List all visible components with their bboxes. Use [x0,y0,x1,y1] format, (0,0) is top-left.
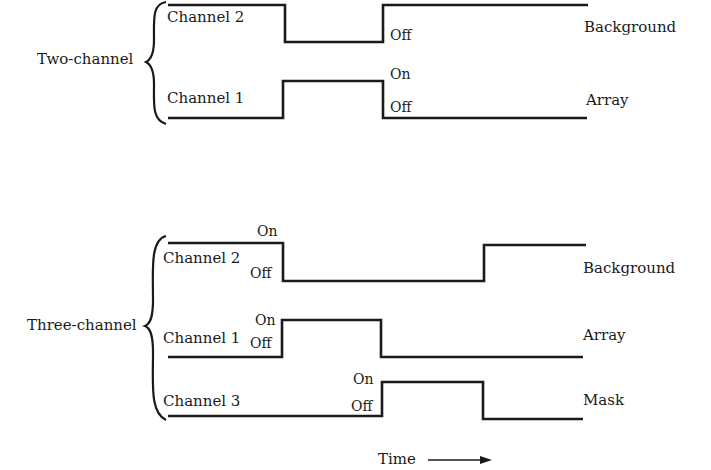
two-ch2-signal-background: Background [584,20,676,35]
three-ch2-signal-background: Background [583,261,675,276]
three-ch3-signal-mask: Mask [583,393,624,408]
three-ch1-on-label: On [255,313,276,327]
time-arrow-head [480,456,492,464]
two-ch1-on-label: On [390,67,411,81]
three-ch1-off-label: Off [250,336,271,350]
three-ch3-off-label: Off [351,399,372,413]
three-ch3-on-label: On [353,372,374,386]
three-channel-group-label: Three-channel [27,318,137,333]
two-ch1-off-label: Off [390,100,411,114]
two-ch2-label: Channel 2 [167,10,244,25]
three-ch2-on-label: On [257,224,278,238]
two-channel-brace [146,2,166,124]
two-channel-group-label: Two-channel [37,52,133,67]
three-ch2-label: Channel 2 [163,251,240,266]
two-ch2-off-label: Off [390,28,411,42]
three-ch3-label: Channel 3 [163,394,240,409]
three-ch1-signal-array: Array [583,328,626,343]
three-ch2-off-label: Off [250,266,271,280]
time-axis-label: Time [378,452,416,467]
two-ch1-label: Channel 1 [167,91,244,106]
three-ch1-label: Channel 1 [163,331,240,346]
two-ch1-signal-array: Array [586,93,629,108]
